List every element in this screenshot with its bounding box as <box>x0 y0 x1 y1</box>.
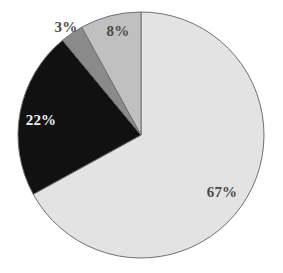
pie-chart: 67%22%3%8% <box>0 0 283 273</box>
pie-chart-canvas <box>0 0 283 273</box>
